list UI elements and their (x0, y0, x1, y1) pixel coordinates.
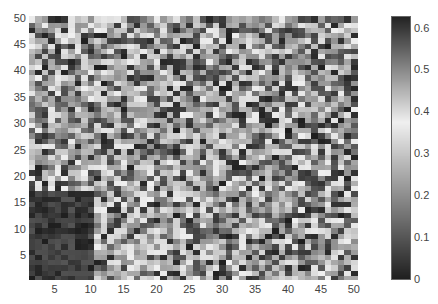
x-tick-label: 20 (150, 283, 162, 295)
y-tick-label: 30 (2, 117, 26, 129)
y-tick-label: 25 (2, 144, 26, 156)
y-tick-label: 15 (2, 196, 26, 208)
y-tick-label: 50 (2, 12, 26, 24)
x-tick-label: 30 (216, 283, 228, 295)
colorbar-tick-label: 0.6 (414, 22, 429, 34)
y-tick-label: 45 (2, 38, 26, 50)
colorbar-tick-label: 0 (414, 273, 420, 285)
y-tick-label: 35 (2, 91, 26, 103)
x-tick-label: 35 (249, 283, 261, 295)
x-tick-label: 25 (183, 283, 195, 295)
colorbar-tick-label: 0.5 (414, 63, 429, 75)
colorbar-tick-label: 0.4 (414, 105, 429, 117)
x-tick-label: 50 (348, 283, 360, 295)
colorbar (391, 16, 411, 280)
x-tick-label: 15 (117, 283, 129, 295)
y-tick-label: 5 (2, 249, 26, 261)
y-tick-label: 40 (2, 64, 26, 76)
y-tick-label: 20 (2, 170, 26, 182)
heatmap-plot (29, 16, 358, 280)
colorbar-tick-label: 0.2 (414, 189, 429, 201)
x-tick-label: 10 (85, 283, 97, 295)
x-tick-label: 5 (52, 283, 58, 295)
x-tick-label: 40 (282, 283, 294, 295)
y-tick-label: 10 (2, 223, 26, 235)
colorbar-tick-label: 0.1 (414, 231, 429, 243)
x-tick-label: 45 (315, 283, 327, 295)
colorbar-tick-label: 0.3 (414, 147, 429, 159)
